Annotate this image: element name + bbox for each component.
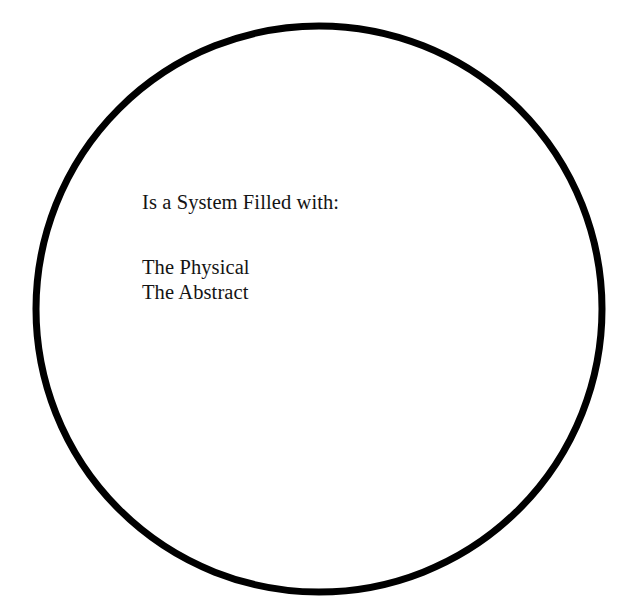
- list-item: The Abstract: [142, 280, 442, 305]
- diagram-canvas: Is a System Filled with: The Physical Th…: [0, 0, 640, 616]
- heading-text: Is a System Filled with:: [142, 190, 442, 215]
- label-spacer: [142, 215, 442, 255]
- list-item: The Physical: [142, 255, 442, 280]
- item-list: The Physical The Abstract: [142, 255, 442, 305]
- circle-label-block: Is a System Filled with: The Physical Th…: [142, 190, 442, 305]
- circle-outline-svg: [0, 0, 640, 616]
- circle-outline: [36, 26, 602, 592]
